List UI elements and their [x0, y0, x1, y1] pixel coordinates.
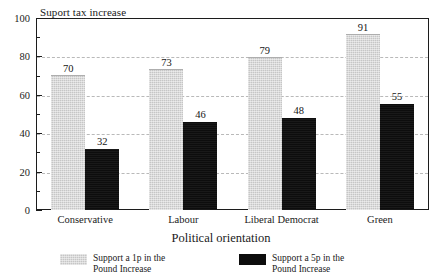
y-tick-major: [36, 210, 42, 211]
bar-group: 7032: [51, 18, 119, 210]
legend-swatch: [60, 254, 87, 265]
legend-swatch: [239, 254, 266, 265]
legend-item[interactable]: Support a 1p in thePound Increase: [60, 253, 165, 274]
x-tick-label: Green: [367, 214, 393, 226]
bar-group: 9155: [346, 18, 414, 210]
bar-chart: Suport tax increase 020406080100 7032734…: [0, 0, 442, 280]
y-tick-label: 100: [14, 13, 30, 24]
bar[interactable]: [51, 75, 85, 210]
y-tick-label: 0: [25, 205, 30, 216]
bar-value-label: 73: [161, 57, 172, 68]
chart-title: Suport tax increase: [39, 6, 128, 18]
y-tick-label: 40: [20, 128, 31, 139]
bars-layer: 7032734679489155: [36, 18, 429, 210]
bar[interactable]: [149, 69, 183, 210]
bar[interactable]: [248, 57, 282, 210]
x-tick-label: Conservative: [57, 214, 112, 226]
y-tick-label: 60: [20, 89, 31, 100]
bar-group: 7346: [149, 18, 217, 210]
bar[interactable]: [380, 104, 414, 210]
legend-label-line2: Pound Increase: [93, 264, 165, 275]
bar-value-label: 46: [195, 109, 206, 120]
bar-value-label: 79: [259, 45, 270, 56]
x-tick-label: Labour: [168, 214, 198, 226]
bar[interactable]: [282, 118, 316, 210]
legend-label-line2: Pound Increase: [272, 264, 344, 275]
bar[interactable]: [85, 149, 119, 210]
bar-value-label: 55: [392, 91, 403, 102]
bar-value-label: 91: [358, 22, 369, 33]
legend-item[interactable]: Support a 5p in thePound Increase: [239, 253, 344, 274]
x-axis-title: Political orientation: [0, 231, 442, 245]
bar-group: 7948: [248, 18, 316, 210]
legend-label: Support a 5p in thePound Increase: [272, 253, 344, 274]
y-axis: 020406080100: [0, 18, 30, 210]
bar-value-label: 32: [97, 136, 108, 147]
x-axis-tick-labels: ConservativeLabourLiberal DemocratGreen: [36, 214, 429, 228]
chart-legend: Support a 1p in thePound IncreaseSupport…: [36, 253, 429, 277]
legend-label: Support a 1p in thePound Increase: [93, 253, 165, 274]
y-tick-label: 80: [20, 51, 31, 62]
bar-value-label: 70: [63, 63, 74, 74]
bar[interactable]: [183, 122, 217, 210]
bar-value-label: 48: [293, 105, 304, 116]
bar[interactable]: [346, 34, 380, 210]
x-tick-label: Liberal Democrat: [244, 214, 318, 226]
y-tick-label: 20: [20, 166, 31, 177]
legend-label-line1: Support a 5p in the: [272, 253, 344, 264]
legend-label-line1: Support a 1p in the: [93, 253, 165, 264]
